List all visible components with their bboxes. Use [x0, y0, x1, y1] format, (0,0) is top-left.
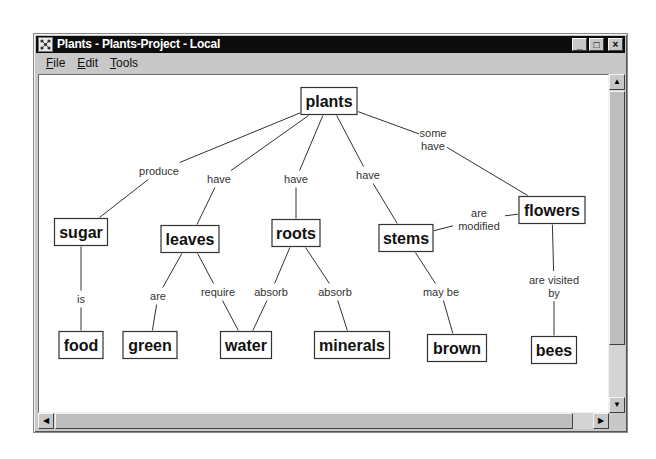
node-label: water: [224, 337, 267, 354]
link-line[interactable]: [443, 301, 452, 334]
link-line[interactable]: [434, 226, 453, 231]
link-label[interactable]: produce: [139, 165, 179, 177]
menu-file-label: ile: [53, 56, 65, 70]
concept-node-sugar[interactable]: sugar: [55, 219, 108, 246]
link-label[interactable]: have: [207, 173, 231, 185]
close-button[interactable]: ×: [608, 38, 623, 51]
link-label[interactable]: absorb: [318, 286, 352, 298]
node-label: food: [64, 337, 99, 354]
link-line[interactable]: [163, 254, 182, 288]
node-label: flowers: [524, 202, 580, 219]
window-title: Plants - Plants-Project - Local: [57, 36, 220, 53]
menu-file[interactable]: File: [46, 54, 65, 72]
node-label: plants: [305, 93, 352, 110]
node-label: sugar: [59, 224, 103, 241]
node-label: green: [128, 337, 172, 354]
concept-map[interactable]: producehavehavehavesomehaveisarerequirea…: [39, 75, 609, 413]
scroll-up-button[interactable]: ▲: [609, 74, 625, 90]
menu-tools-label: ools: [116, 56, 138, 70]
app-network-icon[interactable]: [38, 37, 53, 52]
concept-node-bees[interactable]: bees: [532, 337, 577, 364]
concept-node-water[interactable]: water: [221, 332, 272, 359]
node-label: stems: [383, 230, 429, 247]
link-line[interactable]: [447, 147, 528, 195]
link-line[interactable]: [100, 180, 149, 218]
scroll-right-button[interactable]: ▶: [593, 413, 609, 429]
scroll-down-button[interactable]: ▼: [609, 397, 625, 413]
link-line[interactable]: [180, 113, 300, 163]
concept-node-minerals[interactable]: minerals: [315, 332, 390, 359]
menu-bar: File Edit Tools: [38, 54, 623, 72]
maximize-button[interactable]: □: [589, 38, 604, 51]
app-window: Plants - Plants-Project - Local _ □ × Fi…: [33, 33, 628, 433]
link-line[interactable]: [198, 254, 214, 284]
link-line[interactable]: [306, 248, 330, 284]
minimize-button[interactable]: _: [572, 38, 587, 51]
node-label: brown: [433, 340, 481, 357]
link-line[interactable]: [415, 253, 435, 284]
link-line[interactable]: [275, 248, 290, 284]
link-line[interactable]: [152, 305, 156, 331]
node-label: roots: [276, 225, 316, 242]
link-label[interactable]: aremodified: [458, 207, 500, 232]
link-line[interactable]: [300, 116, 323, 171]
title-bar[interactable]: Plants - Plants-Project - Local _ □ ×: [36, 36, 625, 53]
link-label[interactable]: may be: [423, 286, 459, 298]
concept-node-food[interactable]: food: [59, 332, 103, 359]
concept-node-green[interactable]: green: [123, 332, 177, 359]
concept-node-roots[interactable]: roots: [272, 220, 320, 247]
menu-tools[interactable]: Tools: [110, 54, 138, 72]
link-line[interactable]: [373, 184, 397, 224]
concept-node-stems[interactable]: stems: [379, 225, 433, 252]
link-label[interactable]: is: [77, 293, 85, 305]
concept-node-leaves[interactable]: leaves: [161, 226, 219, 253]
node-label: minerals: [319, 337, 385, 354]
link-line[interactable]: [337, 116, 364, 167]
concept-map-canvas[interactable]: producehavehavehavesomehaveisarerequirea…: [38, 74, 609, 413]
link-label[interactable]: require: [201, 286, 235, 298]
vertical-scrollbar[interactable]: ▲ ▼: [609, 74, 625, 413]
link-line[interactable]: [505, 214, 518, 216]
concept-node-brown[interactable]: brown: [428, 335, 487, 362]
concept-node-plants[interactable]: plants: [301, 88, 357, 115]
link-label[interactable]: absorb: [254, 286, 288, 298]
link-line[interactable]: [338, 301, 348, 331]
link-line[interactable]: [358, 112, 419, 134]
menu-edit-label: dit: [85, 56, 98, 70]
link-line[interactable]: [197, 188, 215, 225]
horizontal-scrollbar[interactable]: ◀ ▶: [38, 413, 609, 429]
link-line[interactable]: [552, 225, 553, 272]
window-controls: _ □ ×: [572, 38, 623, 51]
link-line[interactable]: [253, 301, 267, 331]
link-label[interactable]: are: [150, 290, 166, 302]
link-label[interactable]: somehave: [420, 127, 447, 152]
scrollbar-corner: [609, 413, 625, 429]
menu-edit[interactable]: Edit: [77, 54, 98, 72]
link-label[interactable]: have: [356, 169, 380, 181]
node-label: leaves: [166, 231, 215, 248]
node-label: bees: [536, 342, 573, 359]
concept-node-flowers[interactable]: flowers: [519, 197, 585, 224]
link-label[interactable]: are visitedby: [529, 274, 579, 299]
horizontal-scroll-thumb[interactable]: [55, 413, 573, 429]
vertical-scroll-thumb[interactable]: [609, 91, 625, 345]
scroll-left-button[interactable]: ◀: [38, 413, 54, 429]
link-line[interactable]: [222, 301, 238, 331]
link-line[interactable]: [231, 116, 309, 171]
link-label[interactable]: have: [284, 173, 308, 185]
